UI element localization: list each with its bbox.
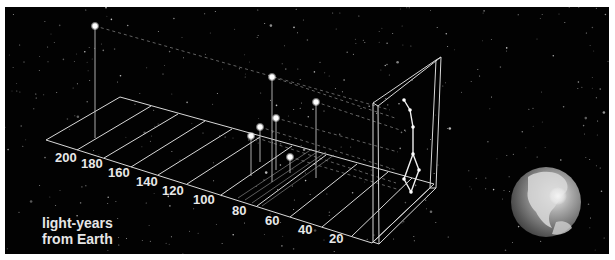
- stars: [91, 22, 321, 162]
- figure: 20018016014012010080604020 light-years f…: [0, 0, 615, 260]
- tick-label: 40: [298, 222, 312, 237]
- tick-label: 60: [265, 213, 279, 228]
- tick-label: 180: [81, 156, 103, 171]
- tick-label: 120: [162, 183, 184, 198]
- star-stems: [95, 26, 316, 182]
- sky-projection-panel: [373, 57, 441, 244]
- caption-line-2: from Earth: [42, 231, 113, 247]
- caption-line-1: light-years: [42, 215, 113, 231]
- tick-label: 140: [136, 174, 158, 189]
- tick-label: 200: [55, 150, 77, 165]
- tick-label: 80: [232, 203, 246, 218]
- projection-lines: [95, 26, 400, 190]
- axis-caption: light-years from Earth: [42, 215, 113, 247]
- tick-label: 160: [108, 165, 130, 180]
- tick-label: 20: [329, 231, 343, 246]
- earth-globe: [511, 167, 581, 237]
- tick-label: 100: [193, 192, 215, 207]
